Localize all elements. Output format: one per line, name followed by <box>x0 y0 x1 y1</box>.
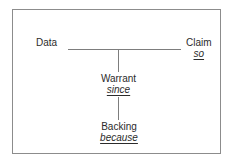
diagram-frame: Data Claim so Warrant since Backing beca… <box>12 9 221 154</box>
node-claim: Claim so <box>186 37 212 59</box>
node-warrant: Warrant since <box>95 73 142 95</box>
connector-warrant-to-backing <box>118 97 119 120</box>
connector-claim-to-warrant <box>118 49 119 72</box>
node-data: Data <box>36 37 57 48</box>
node-claim-term: Claim <box>186 37 212 48</box>
node-data-term: Data <box>36 37 57 48</box>
node-warrant-term: Warrant <box>95 73 142 84</box>
node-backing: Backing because <box>92 121 146 143</box>
node-backing-term: Backing <box>92 121 146 132</box>
node-backing-qualifier: because <box>92 132 146 143</box>
node-claim-qualifier: so <box>186 48 212 59</box>
node-warrant-qualifier: since <box>95 84 142 95</box>
connector-data-to-claim <box>68 49 181 50</box>
toulmin-diagram: Data Claim so Warrant since Backing beca… <box>0 0 235 164</box>
